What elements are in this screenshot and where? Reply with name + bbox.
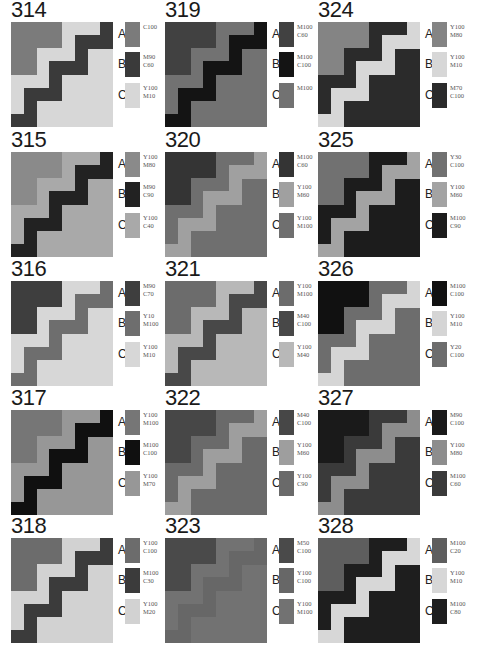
region-b: [24, 101, 37, 114]
color-card-316: 316AM90 C70BY10 M100CY100 M10: [11, 259, 166, 387]
cmyk-label: Y100 M80: [143, 153, 157, 168]
region-b: [100, 281, 113, 294]
region-a: [165, 22, 216, 48]
region-b: [356, 205, 369, 218]
cmyk-label: Y100 M10: [143, 84, 157, 99]
color-swatch: [432, 213, 447, 238]
region-a: [11, 22, 62, 48]
region-b: [356, 334, 369, 347]
staircase-pattern: [318, 410, 420, 515]
color-swatch: [279, 83, 294, 108]
card-number: 315: [11, 127, 46, 153]
color-card-327: 327AM90 C100BY100 M80CM100 C60: [318, 388, 473, 516]
color-swatch: [432, 22, 447, 47]
region-b: [331, 101, 344, 114]
cmyk-label: M100 C90: [450, 214, 466, 229]
region-a: [318, 152, 369, 178]
cmyk-label: Y100 M60: [297, 441, 311, 456]
staircase-pattern: [11, 538, 113, 643]
cmyk-label: M100 C60: [450, 472, 466, 487]
region-a: [11, 307, 37, 333]
region-b: [331, 218, 370, 231]
region-b: [165, 114, 191, 127]
color-swatch: [279, 22, 294, 47]
staircase-pattern: [11, 410, 113, 515]
cmyk-label: M100 C100: [297, 53, 313, 68]
cmyk-label: Y100 C100: [143, 539, 157, 554]
region-a: [11, 152, 62, 178]
region-b: [75, 436, 88, 449]
color-swatch: [125, 342, 140, 367]
color-swatch: [432, 410, 447, 435]
region-a: [11, 538, 62, 564]
color-swatch: [125, 568, 140, 593]
cmyk-label: Y100 M100: [297, 214, 313, 229]
color-card-326: 326AM100 C100BY100 M10CY20 C100: [318, 259, 473, 387]
region-b: [178, 617, 191, 630]
cmyk-label: M100 C80: [450, 600, 466, 615]
color-swatch: [432, 152, 447, 177]
color-swatch: [432, 342, 447, 367]
region-a: [165, 307, 191, 333]
card-number: 320: [165, 127, 200, 153]
region-b: [331, 617, 344, 630]
color-swatch: [125, 410, 140, 435]
color-swatch: [125, 52, 140, 77]
card-number: 322: [165, 385, 200, 411]
region-b: [254, 281, 267, 294]
region-b: [229, 294, 267, 307]
cmyk-label: M40 C100: [297, 411, 311, 426]
region-b: [203, 191, 242, 204]
region-b: [229, 423, 267, 436]
region-b: [178, 101, 191, 114]
color-card-318: 318AY100 C100BM100 C30CY100 M20: [11, 516, 166, 644]
region-b: [382, 564, 395, 577]
cmyk-label: Y100 M10: [450, 312, 464, 327]
color-card-322: 322AM40 C100BY100 M60CY100 C90: [165, 388, 320, 516]
region-b: [24, 604, 63, 617]
region-b: [229, 564, 242, 577]
color-swatch: [279, 182, 294, 207]
region-b: [178, 489, 191, 502]
region-b: [318, 114, 344, 127]
region-b: [254, 22, 267, 35]
color-card-325: 325AY30 C100BY100 M60CM100 C90: [318, 130, 473, 258]
region-b: [254, 152, 267, 165]
staircase-pattern: [318, 538, 420, 643]
region-b: [254, 538, 267, 551]
region-b: [331, 360, 344, 373]
staircase-pattern: [11, 22, 113, 127]
region-b: [75, 35, 113, 48]
region-b: [331, 476, 370, 489]
color-swatch: [279, 471, 294, 496]
region-b: [382, 436, 395, 449]
region-b: [49, 591, 62, 604]
region-b: [331, 604, 370, 617]
region-b: [203, 449, 242, 462]
cmyk-label: M90 C70: [143, 282, 155, 297]
color-swatch: [279, 52, 294, 77]
cmyk-label: C100: [143, 23, 157, 31]
region-a: [11, 436, 37, 462]
region-b: [24, 476, 63, 489]
region-b: [203, 591, 216, 604]
cmyk-label: Y100 M100: [143, 411, 159, 426]
region-b: [49, 61, 88, 74]
card-number: 318: [11, 513, 46, 539]
card-number: 314: [11, 0, 46, 23]
cmyk-label: Y100 C100: [297, 569, 311, 584]
color-swatch: [125, 152, 140, 177]
region-a: [165, 564, 191, 590]
color-swatch: [125, 538, 140, 563]
region-a: [165, 538, 216, 564]
color-swatch: [125, 599, 140, 624]
region-b: [229, 436, 242, 449]
region-a: [318, 178, 344, 204]
cmyk-label: Y100 C90: [297, 472, 311, 487]
region-b: [382, 35, 420, 48]
cmyk-label: Y100 C40: [143, 214, 157, 229]
color-card-317: 317AY100 M100BM100 C100CY100 M70: [11, 388, 166, 516]
region-b: [49, 577, 88, 590]
region-a: [318, 564, 344, 590]
region-b: [100, 152, 113, 165]
